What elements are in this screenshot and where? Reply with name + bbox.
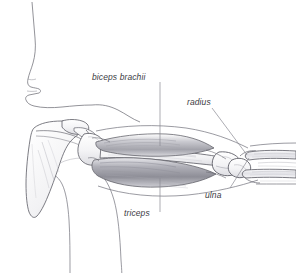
anatomy-drawing (0, 0, 296, 273)
neck-shoulder-outline (92, 105, 140, 122)
facial-profile (26, 2, 92, 108)
anatomy-illustration: biceps brachii radius ulna triceps (0, 0, 296, 273)
radius-leader (212, 108, 247, 155)
label-ulna: ulna (205, 190, 221, 200)
radius-bone (245, 150, 296, 160)
label-triceps: triceps (124, 208, 150, 218)
label-biceps-brachii: biceps brachii (92, 72, 145, 82)
label-radius: radius (187, 97, 211, 107)
torso-outline (44, 172, 122, 273)
ulna-bone (242, 169, 296, 178)
